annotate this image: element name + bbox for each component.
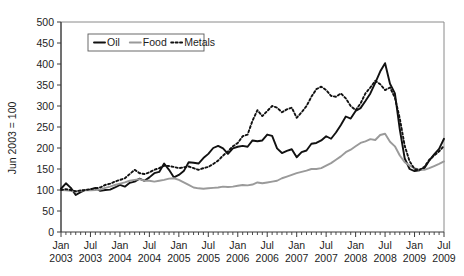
- x-tick-label-month: Jul: [84, 239, 97, 251]
- x-tick-label-year: 2005: [167, 252, 191, 264]
- x-tick-label-month: Jan: [288, 239, 305, 251]
- x-tick-label-month: Jan: [229, 239, 246, 251]
- x-tick-label-year: 2004: [138, 252, 162, 264]
- legend-label-oil: Oil: [107, 36, 120, 48]
- x-tick-label-year: 2003: [49, 252, 73, 264]
- x-tick-label-year: 2008: [344, 252, 368, 264]
- y-tick-label: 400: [36, 58, 54, 70]
- x-tick-label-month: Jul: [143, 239, 156, 251]
- x-tick-label-month: Jan: [406, 239, 423, 251]
- y-tick-label: 0: [48, 226, 54, 238]
- y-tick-label: 50: [42, 205, 54, 217]
- x-tick-label-year: 2007: [285, 252, 309, 264]
- x-tick-label-month: Jan: [111, 239, 128, 251]
- x-tick-label-year: 2008: [373, 252, 397, 264]
- x-tick-label-month: Jul: [202, 239, 215, 251]
- y-tick-label: 350: [36, 79, 54, 91]
- chart-canvas: 050100150200250300350400450500 Jan2003Ju…: [0, 0, 464, 276]
- x-tick-label-month: Jan: [347, 239, 364, 251]
- x-tick-label-month: Jan: [53, 239, 70, 251]
- legend-label-metals: Metals: [184, 36, 215, 48]
- chart-legend: OilFoodMetals: [88, 34, 215, 51]
- y-tick-label: 200: [36, 142, 54, 154]
- y-tick-label: 300: [36, 100, 54, 112]
- x-tick-label-month: Jan: [170, 239, 187, 251]
- y-axis-title: Jun 2003 = 100: [6, 102, 18, 175]
- x-tick-label-year: 2003: [79, 252, 103, 264]
- y-tick-label: 100: [36, 184, 54, 196]
- y-tick-label: 250: [36, 121, 54, 133]
- x-tick-label-month: Jul: [378, 239, 391, 251]
- x-tick-label-year: 2004: [108, 252, 132, 264]
- x-tick-label-year: 2009: [432, 252, 456, 264]
- y-tick-label: 450: [36, 37, 54, 49]
- commodity-price-index-chart: 050100150200250300350400450500 Jan2003Ju…: [0, 0, 464, 276]
- y-tick-label: 500: [36, 16, 54, 28]
- x-tick-label-year: 2007: [314, 252, 338, 264]
- x-tick-label-month: Jul: [437, 239, 450, 251]
- x-tick-label-year: 2006: [256, 252, 280, 264]
- legend-label-food: Food: [143, 36, 167, 48]
- x-tick-label-year: 2005: [197, 252, 221, 264]
- x-tick-label-month: Jul: [319, 239, 332, 251]
- chart-background: [0, 0, 464, 276]
- x-tick-label-year: 2009: [403, 252, 427, 264]
- x-tick-label-month: Jul: [261, 239, 274, 251]
- x-tick-label-year: 2006: [226, 252, 250, 264]
- y-tick-label: 150: [36, 163, 54, 175]
